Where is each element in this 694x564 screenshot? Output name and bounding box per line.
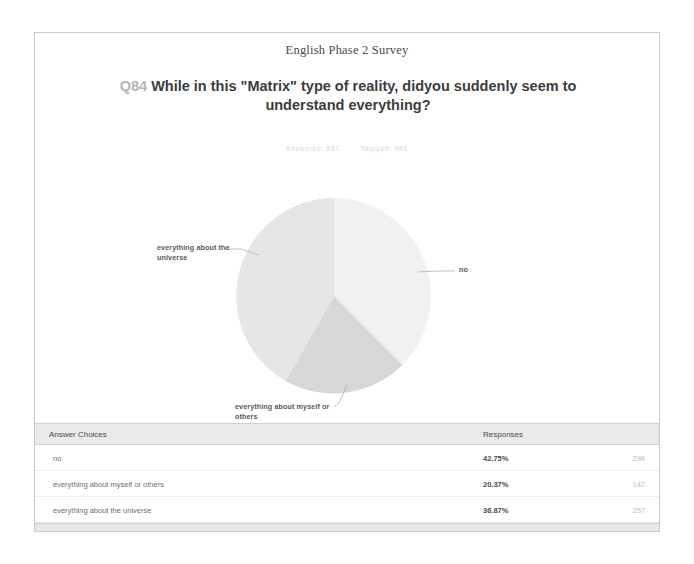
pie-label-universe: everything about the universe (157, 243, 249, 262)
table-row: everything about the universe 36.87% 257 (35, 497, 660, 523)
row-choice-label: everything about the universe (53, 506, 151, 515)
footer-total-count: 697 (632, 531, 645, 533)
header-responses: Responses (483, 430, 523, 439)
table-row: no 42.75% 298 (35, 445, 660, 471)
document-title: English Phase 2 Survey (35, 43, 659, 58)
pie-label-no: no (459, 265, 499, 275)
table-footer-row: Total 697 (35, 523, 660, 532)
survey-page: English Phase 2 Survey Q84 While in this… (34, 32, 660, 532)
row-choice-label: everything about myself or others (53, 480, 164, 489)
row-percent: 36.87% (483, 506, 508, 515)
question-heading: Q84 While in this "Matrix" type of reali… (95, 77, 601, 115)
answered-count: Answered: 697 (286, 145, 340, 152)
pie-label-myself: everything about myself or others (235, 402, 331, 421)
skipped-count: Skipped: 961 (360, 145, 408, 152)
row-count: 298 (632, 454, 645, 463)
question-text: While in this "Matrix" type of reality, … (151, 78, 576, 113)
row-percent: 42.75% (483, 454, 508, 463)
row-count: 257 (632, 506, 645, 515)
results-table: Answer Choices Responses no 42.75% 298 e… (35, 423, 660, 532)
pie-chart-svg (35, 157, 660, 423)
table-header-row: Answer Choices Responses (35, 423, 660, 445)
row-count: 142 (632, 480, 645, 489)
question-number: Q84 (120, 78, 147, 94)
response-meta: Answered: 697 Skipped: 961 (35, 145, 659, 152)
row-percent: 20.37% (483, 480, 508, 489)
row-choice-label: no (53, 454, 61, 463)
table-row: everything about myself or others 20.37%… (35, 471, 660, 497)
pie-slices (236, 198, 431, 394)
header-answer-choices: Answer Choices (49, 430, 107, 439)
footer-total-label: Total (49, 531, 68, 533)
pie-chart: everything about the universe no everyth… (35, 157, 660, 423)
